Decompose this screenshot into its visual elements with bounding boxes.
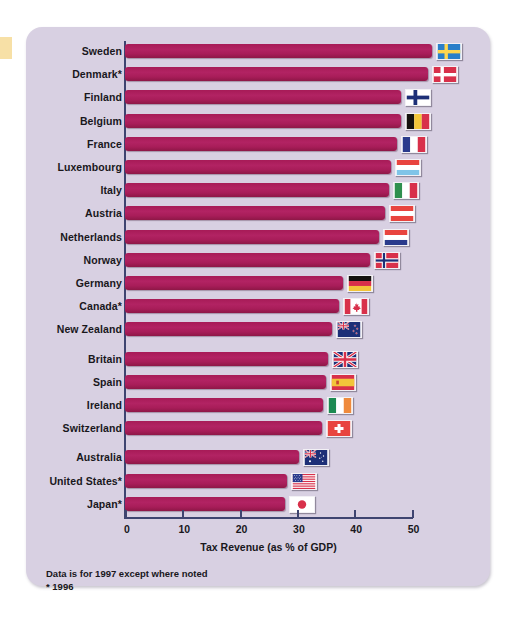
bar-row-label: Netherlands (0, 227, 122, 247)
bar (125, 90, 401, 104)
footnote-line-1: Data is for 1997 except where noted (46, 568, 208, 581)
bar-row: France (26, 134, 490, 154)
flag-finland-icon (405, 89, 431, 106)
bar-with-flag (125, 67, 462, 81)
bar-row: Japan* (26, 494, 490, 514)
bar-with-flag (125, 474, 321, 488)
bar-with-flag (125, 276, 377, 290)
x-axis-tick (240, 510, 242, 518)
flag-luxembourg-icon (395, 159, 421, 176)
bar-with-flag (125, 352, 362, 366)
bar-row-label: Japan* (0, 494, 122, 514)
chart-panel: SwedenDenmark*FinlandBelgiumFranceLuxemb… (26, 27, 490, 586)
bar-with-flag (125, 450, 333, 464)
x-axis-tick-label: 20 (222, 523, 262, 535)
bar (125, 230, 379, 244)
bar-row: United States* (26, 471, 490, 491)
bar-row-label: Norway (0, 250, 122, 270)
bar-row: Netherlands (26, 227, 490, 247)
bar (125, 276, 343, 290)
bar-with-flag (125, 44, 466, 58)
bar-row: Austria (26, 203, 490, 223)
flag-switzerland-icon (326, 420, 352, 437)
bar (125, 398, 323, 412)
bar (125, 206, 385, 220)
bar-with-flag (125, 322, 366, 336)
bar-row-label: Britain (0, 349, 122, 369)
bar-with-flag (125, 497, 319, 511)
bar-row: Belgium (26, 111, 490, 131)
bar-row: Australia (26, 447, 490, 467)
flag-netherlands-icon (383, 229, 409, 246)
bar (125, 114, 401, 128)
bar-with-flag (125, 206, 419, 220)
bar-chart-plot-area: SwedenDenmark*FinlandBelgiumFranceLuxemb… (26, 27, 490, 586)
bar-row-label: Germany (0, 273, 122, 293)
x-axis-tick-label: 0 (107, 523, 147, 535)
bar-row-label: Finland (0, 87, 122, 107)
flag-united-states-icon (291, 473, 317, 490)
bar-row: Sweden (26, 41, 490, 61)
flag-canada-icon (343, 298, 369, 315)
bar (125, 183, 389, 197)
bar (125, 421, 322, 435)
bar-with-flag (125, 137, 431, 151)
x-axis-tick (182, 510, 184, 518)
bar-row-label: Spain (0, 372, 122, 392)
bar-row: Britain (26, 349, 490, 369)
x-axis-tick-label: 40 (336, 523, 376, 535)
flag-new-zealand-icon (336, 321, 362, 338)
x-axis-tick-label: 10 (164, 523, 204, 535)
footnote-line-2: * 1996 (46, 581, 208, 594)
bar-with-flag (125, 183, 423, 197)
bar-row: Finland (26, 87, 490, 107)
bar-row-label: Italy (0, 180, 122, 200)
bar-with-flag (125, 299, 373, 313)
bar (125, 299, 339, 313)
bar (125, 375, 326, 389)
bar-row-label: Austria (0, 203, 122, 223)
bar-row-label: Australia (0, 447, 122, 467)
bar (125, 253, 370, 267)
flag-spain-icon (330, 374, 356, 391)
bar-row: Canada* (26, 296, 490, 316)
bar-row-label: Canada* (0, 296, 122, 316)
flag-australia-icon (303, 449, 329, 466)
bar-row-label: United States* (0, 471, 122, 491)
bar-row: Norway (26, 250, 490, 270)
bar-with-flag (125, 114, 435, 128)
bar (125, 497, 285, 511)
bar (125, 322, 332, 336)
bar-row-label: Sweden (0, 41, 122, 61)
x-axis-tick (297, 510, 299, 518)
flag-italy-icon (393, 182, 419, 199)
bar-with-flag (125, 160, 425, 174)
bar (125, 44, 432, 58)
flag-austria-icon (389, 205, 415, 222)
flag-britain-icon (332, 351, 358, 368)
bar-row: Ireland (26, 395, 490, 415)
bar (125, 352, 328, 366)
bar-with-flag (125, 398, 357, 412)
bar-row-label: Denmark* (0, 64, 122, 84)
bar-row-label: Belgium (0, 111, 122, 131)
bar (125, 67, 428, 81)
x-axis-title: Tax Revenue (as % of GDP) (124, 541, 413, 553)
flag-ireland-icon (327, 397, 353, 414)
flag-norway-icon (374, 252, 400, 269)
bar-row: Italy (26, 180, 490, 200)
bar (125, 160, 391, 174)
x-axis-tick-label: 30 (279, 523, 319, 535)
bar-row: New Zealand (26, 319, 490, 339)
x-axis-line (124, 517, 413, 519)
bar-row: Spain (26, 372, 490, 392)
flag-sweden-icon (436, 43, 462, 60)
flag-japan-icon (289, 496, 315, 513)
chart-footnote: Data is for 1997 except where noted * 19… (46, 568, 208, 593)
bar-row: Luxembourg (26, 157, 490, 177)
x-axis-tick (125, 510, 127, 518)
x-axis-tick-label: 50 (394, 523, 434, 535)
flag-france-icon (401, 136, 427, 153)
bar-row-label: Ireland (0, 395, 122, 415)
bar-row: Denmark* (26, 64, 490, 84)
